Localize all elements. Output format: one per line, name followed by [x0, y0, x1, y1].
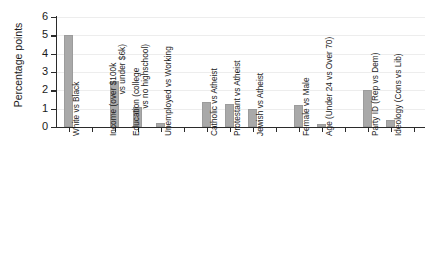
x-axis-label-line: vs no highschool): [141, 44, 150, 136]
x-axis-label: Catholic vs Atheist: [210, 68, 219, 136]
y-tick-label: 6: [26, 10, 48, 22]
x-axis-label: Female vs Male: [302, 77, 311, 136]
y-tick: [51, 127, 57, 128]
x-tick: [230, 127, 231, 132]
y-tick: [51, 35, 57, 36]
y-tick-label: 2: [26, 83, 48, 95]
x-axis-label: White vs Black: [72, 82, 81, 136]
x-tick: [414, 127, 415, 132]
gridline: [57, 35, 425, 36]
x-axis-label: Education (collegevs no highschool): [132, 44, 151, 136]
y-tick: [51, 109, 57, 110]
y-tick-label: 4: [26, 47, 48, 59]
x-axis-label: Jewish vs Atheist: [256, 73, 265, 136]
x-axis-label-line: vs under $6k): [118, 44, 127, 136]
x-tick: [345, 127, 346, 132]
gridline: [57, 17, 425, 18]
x-tick: [276, 127, 277, 132]
x-axis-label: Party ID (Rep vs Dem): [371, 53, 380, 136]
x-axis-label: Ideology (Cons vs Lib): [394, 53, 403, 136]
x-tick: [391, 127, 392, 132]
y-tick-label: 3: [26, 65, 48, 77]
x-tick: [322, 127, 323, 132]
x-axis-label: Protestant vs Atheist: [233, 60, 242, 136]
x-axis-label: Age (Under 24 vs Over 70): [325, 37, 334, 136]
x-tick: [161, 127, 162, 132]
x-tick: [299, 127, 300, 132]
y-tick-label: 5: [26, 28, 48, 40]
x-tick: [207, 127, 208, 132]
y-tick-label: 1: [26, 102, 48, 114]
x-tick: [368, 127, 369, 132]
bar-chart: Percentage points 0123456 White vs Black…: [0, 0, 432, 276]
x-axis-label: Income (over $100kvs under $6k): [109, 44, 128, 136]
y-tick-label: 0: [26, 120, 48, 132]
y-tick: [51, 17, 57, 18]
x-tick: [184, 127, 185, 132]
y-tick: [51, 90, 57, 91]
x-tick: [92, 127, 93, 132]
x-tick: [69, 127, 70, 132]
y-tick: [51, 72, 57, 73]
x-axis-label: Unemployed vs Working: [164, 46, 173, 136]
x-tick: [253, 127, 254, 132]
y-tick: [51, 54, 57, 55]
